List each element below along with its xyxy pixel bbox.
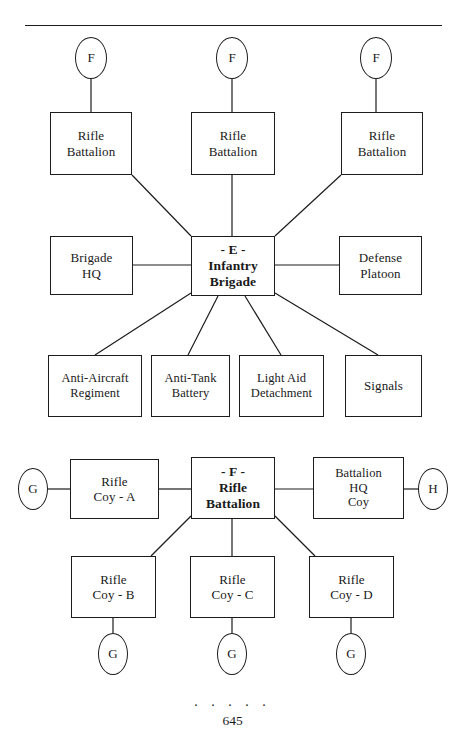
node-line: Rifle (338, 572, 365, 587)
node-line: Brigade (210, 274, 256, 290)
page-number: 645 (0, 713, 465, 729)
node-line: Rifle (220, 128, 247, 143)
badge-label: H (428, 481, 437, 497)
node-anti-tank-battery[interactable]: Anti-Tank Battery (151, 355, 230, 417)
node-line: Regiment (70, 386, 119, 401)
node-rifle-battalion-1[interactable]: Rifle Battalion (50, 112, 132, 175)
node-line: Light Aid (257, 371, 306, 386)
link-center-light-aid (245, 296, 281, 355)
link-rb3-center (275, 175, 341, 236)
node-rifle-coy-d[interactable]: Rifle Coy - D (309, 556, 394, 618)
node-rifle-coy-b[interactable]: Rifle Coy - B (71, 556, 156, 618)
node-line: Battalion (335, 466, 382, 481)
badge-f-1: F (75, 37, 107, 79)
badge-g-coya: G (18, 468, 48, 510)
badge-label: G (28, 481, 37, 497)
link-center-signals (275, 293, 378, 355)
node-line: Coy - C (212, 587, 254, 602)
node-rifle-battalion-3[interactable]: Rifle Battalion (341, 112, 423, 175)
node-line: Platoon (360, 266, 400, 281)
badge-label: G (227, 646, 236, 662)
badge-g-coyd: G (336, 633, 366, 675)
node-line: Anti-Aircraft (61, 371, 128, 386)
node-line: HQ (349, 481, 367, 496)
badge-label: F (372, 50, 379, 66)
badge-label: G (108, 646, 117, 662)
node-line: Infantry (208, 258, 258, 274)
node-signals[interactable]: Signals (345, 355, 422, 417)
node-line: Defense (359, 250, 402, 265)
node-infantry-brigade[interactable]: - E - Infantry Brigade (191, 236, 275, 296)
link-center-anti-aircraft (95, 293, 191, 355)
link-center-coyb (151, 516, 191, 556)
node-line: Battalion (206, 496, 260, 512)
badge-g-coyb: G (98, 633, 128, 675)
node-line: Brigade (71, 250, 113, 265)
node-rifle-coy-a[interactable]: Rifle Coy - A (70, 459, 159, 519)
badge-f-3: F (360, 37, 392, 79)
node-line: Signals (364, 378, 403, 393)
footer-dots: . . . . . (0, 694, 465, 710)
link-center-coyd (275, 516, 315, 556)
node-code: - F - (221, 464, 245, 480)
node-line: Battalion (358, 144, 407, 159)
node-battalion-hq-coy[interactable]: Battalion HQ Coy (313, 457, 404, 519)
node-line: Coy - B (93, 587, 135, 602)
node-line: Coy - A (94, 489, 136, 504)
node-line: Anti-Tank (164, 371, 216, 386)
badge-label: G (346, 646, 355, 662)
node-line: Battalion (67, 144, 116, 159)
node-brigade-hq[interactable]: Brigade HQ (50, 236, 133, 295)
badge-h-bnhq: H (418, 468, 448, 510)
badge-f-2: F (216, 37, 248, 79)
node-line: Rifle (100, 572, 127, 587)
diagram-page: F F F Rifle Battalion Rifle Battalion Ri… (0, 0, 465, 746)
node-rifle-battalion-2[interactable]: Rifle Battalion (191, 112, 275, 175)
node-line: Rifle (369, 128, 396, 143)
node-rifle-coy-c[interactable]: Rifle Coy - C (190, 556, 275, 618)
node-defense-platoon[interactable]: Defense Platoon (339, 236, 422, 295)
node-rifle-battalion-center[interactable]: - F - Rifle Battalion (191, 457, 275, 519)
link-center-anti-tank (188, 296, 218, 355)
node-anti-aircraft-regiment[interactable]: Anti-Aircraft Regiment (48, 355, 142, 417)
node-line: Battalion (209, 144, 258, 159)
link-rb1-center (132, 175, 191, 236)
top-separator-rule (25, 25, 442, 26)
node-line: Rifle (219, 480, 247, 496)
node-line: Rifle (219, 572, 246, 587)
node-line: Rifle (78, 128, 105, 143)
node-line: HQ (82, 266, 101, 281)
node-code: - E - (220, 242, 245, 258)
node-line: Coy - D (330, 587, 373, 602)
node-line: Detachment (251, 386, 312, 401)
badge-label: F (87, 50, 94, 66)
node-line: Rifle (101, 474, 128, 489)
node-light-aid-detachment[interactable]: Light Aid Detachment (239, 355, 324, 417)
badge-label: F (228, 50, 235, 66)
node-line: Battery (172, 386, 210, 401)
badge-g-coyc: G (217, 633, 247, 675)
node-line: Coy (348, 495, 369, 510)
